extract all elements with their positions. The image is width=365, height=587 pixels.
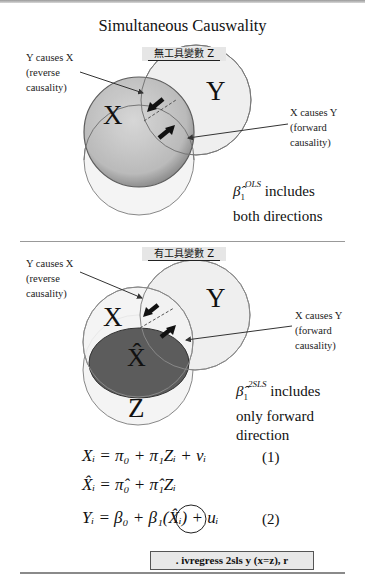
stata-command-box: . ivregress 2sls y (x=z), r — [150, 551, 314, 570]
bottom-label-y: Y — [206, 283, 226, 314]
bottom-forward-causality-note: X causes Y (forward causality) — [295, 308, 342, 353]
bottom-with-instrument-label: 有工具變數 Z — [142, 247, 226, 261]
top-no-instrument-label: 無工具變數 Z — [142, 47, 226, 61]
equation-first-stage: Xᵢ = π₀ + π₁Zᵢ + vᵢ — [82, 446, 206, 466]
bottom-beta-2sls-caption: β̂12SLS includes only forward direction — [236, 375, 320, 445]
top-circle-x — [84, 77, 194, 187]
bottom-reverse-causality-note: Y causes X (reverse causality) — [26, 256, 73, 301]
bottom-label-x: X — [103, 302, 123, 333]
top-beta-ols-caption: β̂1OLS includes both directions — [233, 175, 323, 226]
panel-divider — [20, 241, 345, 242]
equation-second-stage: Yᵢ = β₀ + β₁(X̂ᵢ) + uᵢ — [82, 508, 218, 528]
bottom-rule — [20, 572, 345, 574]
equation-fitted: X̂ᵢ = π̂₀ + π̂₁Zᵢ — [82, 475, 176, 495]
top-forward-causality-note: X causes Y (forward causality) — [290, 105, 337, 150]
bottom-label-z: Z — [128, 393, 145, 424]
top-label-x: X — [103, 100, 123, 131]
equation-number-2: (2) — [262, 511, 280, 528]
top-reverse-causality-note: Y causes X (reverse causality) — [26, 50, 73, 95]
equation-number-1: (1) — [262, 449, 280, 466]
top-label-y: Y — [206, 76, 226, 107]
bottom-label-xhat: X̂ — [127, 343, 146, 373]
